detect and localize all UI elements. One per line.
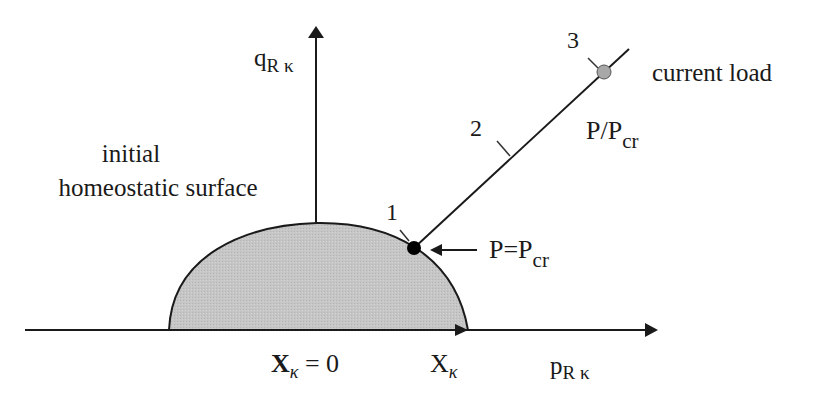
tick-point-3 (588, 58, 598, 68)
point-1-label: 1 (386, 199, 398, 225)
homeostatic-surface-diagram: qR κ initial homeostatic surface 1 2 3 c… (0, 0, 819, 399)
load-path-line (414, 49, 629, 248)
surface-label-line2: homeostatic surface (58, 174, 257, 201)
p-axis-label: pR κ (550, 352, 590, 383)
current-load-label: current load (652, 59, 773, 86)
point-2-label: 2 (470, 115, 482, 141)
origin-label: Xκ = 0 (271, 349, 339, 382)
point-3-label: 3 (567, 27, 579, 53)
critical-arrow-head-icon (430, 244, 442, 256)
p-axis-arrowhead-icon (645, 323, 658, 337)
tick-point-2 (497, 141, 510, 156)
surface-label-line1: initial (102, 140, 160, 167)
critical-point-1 (407, 241, 421, 255)
current-load-point-3 (597, 65, 611, 79)
q-axis-arrowhead-icon (308, 26, 324, 38)
ratio-label: P/Pcr (586, 116, 638, 153)
q-axis-label: qR κ (254, 44, 294, 76)
critical-load-label: P=Pcr (489, 235, 549, 272)
intercept-label: Xκ (430, 349, 458, 382)
